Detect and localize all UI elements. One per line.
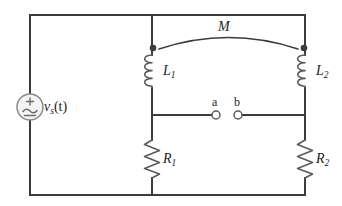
- label-L1-symbol: L: [163, 63, 171, 78]
- terminal-a-node[interactable]: [212, 111, 220, 119]
- polarity-dot-L1-icon: [150, 45, 157, 52]
- label-terminal-b: b: [234, 96, 240, 108]
- inductor-L2-coil: [298, 55, 305, 88]
- label-resistor-R1: R1: [163, 152, 176, 168]
- polarity-dot-L2-icon: [301, 45, 308, 52]
- inductor-L1-coil: [145, 55, 152, 88]
- label-L2-symbol: L: [316, 63, 324, 78]
- label-resistor-R2: R2: [316, 152, 329, 168]
- mutual-inductance-arc: [159, 38, 298, 50]
- resistor-R1-zigzag: [145, 140, 160, 178]
- resistor-R2-zigzag: [298, 140, 313, 178]
- label-inductor-L2: L2: [316, 64, 329, 80]
- label-R1-symbol: R: [163, 151, 172, 166]
- label-R2-symbol: R: [316, 151, 325, 166]
- label-L1-subscript: 1: [171, 70, 176, 80]
- label-inductor-L1: L1: [163, 64, 176, 80]
- terminal-b-node[interactable]: [234, 111, 242, 119]
- label-R2-subscript: 2: [325, 158, 330, 168]
- label-source-argument: (t): [54, 99, 67, 114]
- label-L2-subscript: 2: [324, 70, 329, 80]
- label-source: vs(t): [44, 100, 67, 116]
- label-R1-subscript: 1: [172, 158, 177, 168]
- label-terminal-a: a: [212, 96, 217, 108]
- label-mutual-inductance: M: [218, 20, 230, 34]
- circuit-diagram: vs(t) L1 L2 R1 R2 M a b: [0, 0, 342, 206]
